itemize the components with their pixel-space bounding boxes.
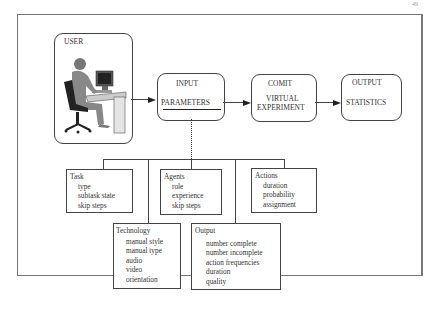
drop-task bbox=[103, 159, 104, 169]
task-box: Task type subtask state skip steps bbox=[66, 169, 133, 213]
comit-virtual-experiment-box: COMIT VIRTUAL EXPERIMENT bbox=[251, 74, 317, 122]
input-parameters-box: INPUT PARAMETERS bbox=[157, 73, 225, 121]
actions-box: Actions duration probability assignment bbox=[251, 168, 317, 213]
output-params-box: Output number complete number incomplete… bbox=[191, 223, 281, 290]
actions-item: probability bbox=[263, 190, 296, 199]
task-item: skip steps bbox=[78, 201, 115, 210]
arrow-input-to-comit bbox=[223, 102, 245, 103]
arrow-comit-to-output bbox=[315, 102, 335, 103]
virtual-label: VIRTUAL bbox=[266, 95, 298, 103]
drop-technology bbox=[148, 159, 149, 223]
agents-item: skip steps bbox=[172, 201, 204, 210]
statistics-label: STATISTICS bbox=[346, 99, 386, 107]
tree-bus-line bbox=[103, 159, 285, 160]
output-item: number incomplete bbox=[206, 248, 263, 257]
task-title: Task bbox=[70, 172, 84, 181]
agents-item: experience bbox=[172, 191, 204, 200]
drop-agents bbox=[191, 159, 192, 169]
arrowhead-icon bbox=[333, 100, 341, 106]
task-item: subtask state bbox=[78, 191, 115, 200]
actions-title: Actions bbox=[255, 171, 278, 180]
technology-item: video bbox=[126, 265, 163, 274]
actions-item: duration bbox=[263, 181, 296, 190]
output-statistics-box: OUTPUT STATISTICS bbox=[341, 74, 402, 121]
output-label: OUTPUT bbox=[352, 79, 382, 87]
arrowhead-icon bbox=[243, 100, 251, 106]
output-item: quality bbox=[206, 277, 263, 286]
parameters-label: PARAMETERS bbox=[161, 99, 210, 107]
input-label: INPUT bbox=[176, 80, 198, 88]
technology-item: manual style bbox=[126, 237, 163, 246]
technology-box: Technology manual style manual type audi… bbox=[113, 223, 181, 289]
agents-title: Agents bbox=[164, 172, 185, 181]
comit-label: COMIT bbox=[268, 80, 292, 88]
user-box: USER bbox=[54, 33, 133, 144]
user-at-computer-icon bbox=[58, 50, 128, 138]
agents-box: Agents role experience skip steps bbox=[160, 169, 222, 215]
page-number: 49 bbox=[412, 1, 418, 7]
experiment-label: EXPERIMENT bbox=[257, 104, 305, 112]
drop-output bbox=[235, 159, 236, 223]
arrowhead-icon bbox=[148, 97, 156, 103]
technology-title: Technology bbox=[116, 226, 150, 235]
task-item: type bbox=[78, 182, 115, 191]
user-label: USER bbox=[64, 38, 83, 46]
output-item: action frequencies bbox=[206, 258, 263, 267]
parameters-underline bbox=[163, 109, 221, 110]
output-title: Output bbox=[195, 226, 215, 235]
output-item: number complete bbox=[206, 239, 263, 248]
technology-item: audio bbox=[126, 256, 163, 265]
actions-item: assignment bbox=[263, 200, 296, 209]
technology-item: manual type bbox=[126, 246, 163, 255]
agents-item: role bbox=[172, 182, 204, 191]
technology-item: orientation bbox=[126, 275, 163, 284]
dotted-connector bbox=[191, 119, 192, 159]
output-item: duration bbox=[206, 267, 263, 276]
